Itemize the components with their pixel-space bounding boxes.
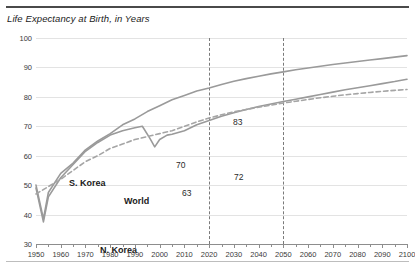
x-axis-tick-label: 2070 xyxy=(324,250,341,259)
y-axis-tick-label: 90 xyxy=(4,63,32,72)
x-axis-tick xyxy=(36,244,37,248)
x-axis-tick-label: 1950 xyxy=(28,250,45,259)
series-label-world: World xyxy=(124,196,149,206)
x-axis-tick xyxy=(234,244,235,248)
y-axis-tick-label: 50 xyxy=(4,181,32,190)
x-axis-tick-label: 2100 xyxy=(399,250,415,259)
y-axis-tick-label: 100 xyxy=(4,34,32,43)
x-axis-tick xyxy=(110,244,111,248)
x-axis-tick xyxy=(246,244,247,247)
y-axis-tick-label: 70 xyxy=(4,122,32,131)
x-axis-tick-label: 1970 xyxy=(77,250,94,259)
y-axis-tick-label: 60 xyxy=(4,151,32,160)
x-axis-tick xyxy=(222,244,223,247)
x-axis-tick xyxy=(271,244,272,247)
x-axis-tick xyxy=(184,244,185,248)
x-axis-tick-label: 2010 xyxy=(176,250,193,259)
x-axis-tick-label: 2000 xyxy=(151,250,168,259)
x-axis-tick-label: 1990 xyxy=(127,250,144,259)
x-axis-tick xyxy=(345,244,346,247)
series-curves xyxy=(36,38,407,244)
x-axis-tick xyxy=(123,244,124,247)
x-axis-tick-label: 2040 xyxy=(250,250,267,259)
x-axis-tick-label: 2090 xyxy=(374,250,391,259)
x-axis-tick xyxy=(172,244,173,247)
annotation-72: 72 xyxy=(234,172,243,182)
x-axis-tick xyxy=(147,244,148,247)
plot-area: S. KoreaWorldN. Korea 83706372 xyxy=(36,38,407,244)
x-axis-tick xyxy=(382,244,383,248)
x-axis-tick xyxy=(395,244,396,247)
annotation-70: 70 xyxy=(176,160,185,170)
top-divider xyxy=(6,6,409,8)
x-axis-tick-label: 2050 xyxy=(275,250,292,259)
x-axis-tick xyxy=(73,244,74,247)
x-axis-tick xyxy=(296,244,297,247)
x-axis-tick xyxy=(135,244,136,248)
x-axis-tick xyxy=(283,244,284,248)
x-axis-tick xyxy=(407,244,408,248)
x-axis-tick xyxy=(358,244,359,248)
x-axis-tick xyxy=(85,244,86,248)
chart-root: Life Expectancy at Birth, in Years S. Ko… xyxy=(0,0,415,267)
x-axis-tick xyxy=(308,244,309,248)
x-axis-tick xyxy=(320,244,321,247)
x-axis-tick xyxy=(197,244,198,247)
y-axis-tick-label: 30 xyxy=(4,240,32,249)
x-axis-tick xyxy=(209,244,210,248)
x-axis-tick-label: 2080 xyxy=(349,250,366,259)
x-axis-tick-label: 2060 xyxy=(300,250,317,259)
x-axis-tick-label: 2020 xyxy=(201,250,218,259)
series-label-s-korea: S. Korea xyxy=(69,178,106,188)
x-axis-tick xyxy=(160,244,161,248)
annotation-83: 83 xyxy=(233,117,242,127)
x-axis-tick-label: 1960 xyxy=(52,250,69,259)
x-axis-tick xyxy=(98,244,99,247)
x-axis-tick-label: 2030 xyxy=(226,250,243,259)
x-axis-tick xyxy=(48,244,49,247)
y-axis-tick-label: 40 xyxy=(4,210,32,219)
x-axis-tick xyxy=(61,244,62,248)
x-axis-tick xyxy=(259,244,260,248)
y-axis-tick-label: 80 xyxy=(4,92,32,101)
x-axis: 1950196019701980199020002010202020302040… xyxy=(36,244,407,266)
x-axis-tick xyxy=(333,244,334,248)
annotation-63: 63 xyxy=(182,188,191,198)
series-line-s-korea xyxy=(36,56,407,219)
x-axis-tick xyxy=(370,244,371,247)
chart-title: Life Expectancy at Birth, in Years xyxy=(7,13,150,24)
series-line-n-korea xyxy=(36,79,407,222)
x-axis-tick-label: 1980 xyxy=(102,250,119,259)
